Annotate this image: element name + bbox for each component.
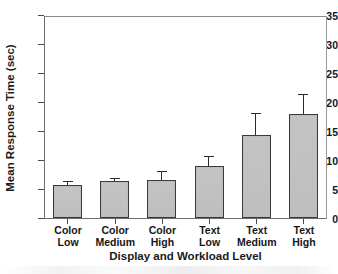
x-axis-category-label-line1: Text (199, 224, 220, 236)
bar (242, 135, 271, 219)
x-axis-category-label-line1: Color (149, 224, 176, 236)
error-bar-stem (67, 181, 68, 185)
x-axis-category-label-line1: Color (102, 224, 129, 236)
bar (147, 180, 176, 218)
bar (53, 185, 82, 218)
error-bar-cap (298, 94, 308, 95)
bar (195, 166, 224, 218)
bar (289, 114, 318, 218)
error-bar-cap (251, 113, 261, 114)
error-bar-stem (114, 178, 115, 181)
x-axis-category-label: ColorMedium (92, 224, 139, 248)
x-axis-category-label: ColorHigh (139, 224, 186, 248)
x-axis-category-label-line1: Text (294, 224, 315, 236)
error-bar-cap (110, 178, 120, 179)
x-axis-category-label-line2: High (139, 236, 186, 248)
scan-artifact (0, 266, 338, 274)
x-axis-category-label-line2: Low (45, 236, 92, 248)
x-axis-category-label: TextLow (186, 224, 233, 248)
error-bar-stem (161, 172, 162, 181)
x-axis-category-label: TextMedium (233, 224, 280, 248)
error-bar-cap (63, 181, 73, 182)
x-axis-category-label-line2: Medium (233, 236, 280, 248)
error-bar-cap (204, 156, 214, 157)
x-axis-category-label-line2: Low (186, 236, 233, 248)
bar-chart-figure: Mean Response Time (sec) 05101520253035 … (0, 0, 338, 274)
plot-area (44, 16, 327, 219)
bar (100, 181, 129, 218)
error-bar-stem (255, 114, 256, 135)
x-axis-category-label-line2: High (280, 236, 327, 248)
x-axis-category-label: TextHigh (280, 224, 327, 248)
y-axis-title: Mean Response Time (sec) (2, 16, 18, 220)
x-axis-title: Display and Workload Level (44, 249, 327, 263)
x-axis-category-label-line1: Color (54, 224, 81, 236)
x-axis-category-label-line2: Medium (92, 236, 139, 248)
x-axis-category-label: ColorLow (45, 224, 92, 248)
x-axis-category-label-line1: Text (246, 224, 267, 236)
error-bar-stem (303, 95, 304, 114)
error-bar-cap (157, 171, 167, 172)
error-bar-stem (208, 157, 209, 166)
